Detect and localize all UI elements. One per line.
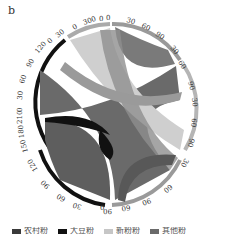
- legend-label: 其他粉: [162, 227, 186, 235]
- svg-text:120: 120: [26, 157, 40, 173]
- svg-text:30: 30: [179, 157, 190, 169]
- ribbons: [40, 27, 184, 202]
- legend-swatch: [150, 229, 159, 234]
- svg-text:30: 30: [54, 28, 66, 40]
- legend-swatch: [104, 229, 113, 234]
- svg-text:60: 60: [189, 118, 198, 128]
- legend-item: 新粉粉: [104, 227, 140, 235]
- svg-text:90: 90: [39, 178, 51, 190]
- legend-swatch: [58, 229, 67, 234]
- svg-text:60: 60: [55, 192, 67, 203]
- legend: 农村粉 大豆粉 新粉粉 其他粉: [12, 227, 226, 235]
- legend-item: 其他粉: [150, 227, 186, 235]
- svg-text:0: 0: [100, 204, 104, 212]
- svg-text:90: 90: [25, 57, 36, 69]
- svg-text:0: 0: [16, 108, 24, 112]
- svg-text:30: 30: [16, 91, 25, 101]
- svg-text:30: 30: [72, 201, 83, 211]
- legend-label: 新粉粉: [116, 227, 140, 235]
- legend-item: 农村粉: [12, 227, 48, 235]
- svg-text:150: 150: [19, 139, 30, 154]
- chord-diagram: 30 0 300 0 0 30 60 90 30 60 90 30 60 90 …: [0, 0, 226, 235]
- legend-label: 农村粉: [24, 227, 48, 235]
- svg-text:0: 0: [99, 15, 103, 23]
- svg-text:0: 0: [46, 37, 55, 46]
- svg-text:180: 180: [17, 125, 26, 139]
- svg-text:60: 60: [18, 74, 28, 85]
- svg-text:0: 0: [106, 14, 110, 22]
- legend-swatch: [12, 229, 21, 234]
- svg-text:120: 120: [33, 40, 48, 55]
- svg-text:30: 30: [190, 97, 199, 107]
- legend-label: 大豆粉: [70, 227, 94, 235]
- svg-text:60: 60: [121, 203, 131, 212]
- legend-item: 大豆粉: [58, 227, 94, 235]
